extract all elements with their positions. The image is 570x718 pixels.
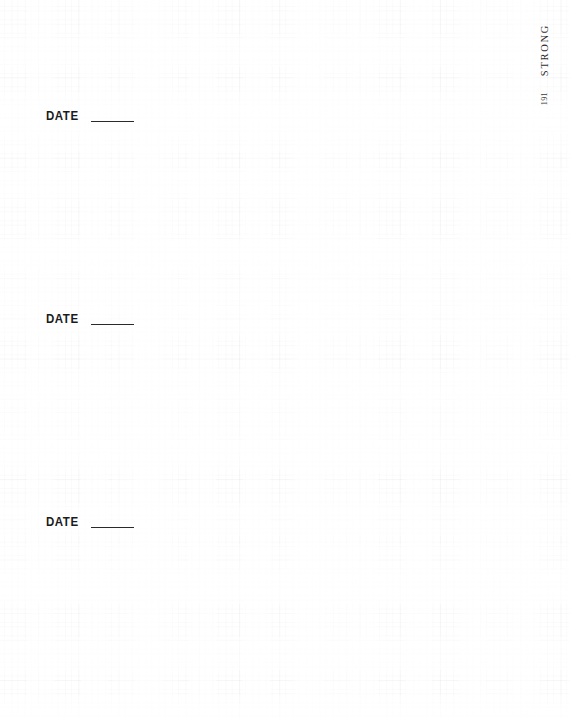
- grid-fine-lines: [0, 0, 570, 718]
- graph-paper-background: [0, 0, 570, 718]
- date-write-in-line[interactable]: [91, 324, 134, 325]
- brand-wordmark: STRONG: [540, 24, 551, 76]
- date-entry-row[interactable]: DATE: [46, 516, 134, 529]
- page-side-mark: 191 STRONG: [540, 24, 551, 105]
- date-entry-row[interactable]: DATE: [46, 313, 134, 326]
- date-label: DATE: [46, 110, 79, 123]
- date-write-in-line[interactable]: [91, 527, 134, 528]
- date-write-in-line[interactable]: [91, 121, 134, 122]
- grid-fade-wash: [0, 0, 570, 718]
- grid-texture-overlay: [0, 0, 570, 718]
- grid-coarse-lines: [0, 0, 570, 718]
- date-label: DATE: [46, 516, 79, 529]
- page-number: 191: [541, 92, 549, 105]
- journal-page: DATE DATE DATE 191 STRONG: [0, 0, 570, 718]
- date-label: DATE: [46, 313, 79, 326]
- grid-fine-lines-offset: [0, 0, 570, 718]
- date-entry-row[interactable]: DATE: [46, 110, 134, 123]
- grid-texture-overlay-2: [0, 0, 570, 718]
